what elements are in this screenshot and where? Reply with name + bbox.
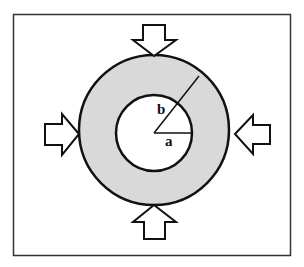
label-a: a — [165, 133, 173, 149]
label-b: b — [157, 101, 165, 117]
diagram-canvas: a b — [0, 0, 304, 267]
